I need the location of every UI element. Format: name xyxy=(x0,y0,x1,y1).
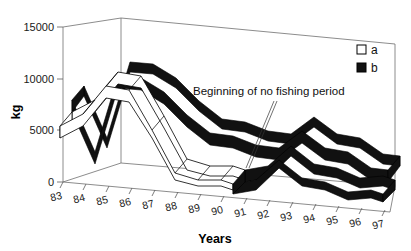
legend-swatch-b xyxy=(357,63,366,72)
x-tick-label-93: 93 xyxy=(279,209,293,224)
x-tick-label-88: 88 xyxy=(164,199,178,214)
y-tick-label-0: 0 xyxy=(48,176,54,188)
x-tick-label-83: 83 xyxy=(49,189,63,204)
frame-back-top-edge xyxy=(121,18,395,44)
x-tick-label-97: 97 xyxy=(371,217,385,232)
y-axis-ticks xyxy=(57,27,63,182)
x-tick-label-90: 90 xyxy=(210,203,224,218)
x-tick-label-92: 92 xyxy=(256,207,270,222)
chart-figure: 15000 10000 5000 0 kg 83 84 xyxy=(0,0,411,251)
legend: a b xyxy=(357,43,378,75)
x-tick-label-86: 86 xyxy=(118,195,132,210)
y-axis-title: kg xyxy=(9,105,23,120)
frame-top-left-diagonal xyxy=(63,18,121,27)
x-tick-label-89: 89 xyxy=(187,201,201,216)
x-tick-85 xyxy=(106,186,109,192)
x-tick-87 xyxy=(152,190,155,196)
x-tick-83 xyxy=(60,182,63,188)
chart-canvas: 15000 10000 5000 0 kg 83 84 xyxy=(0,0,411,251)
x-tick-label-95: 95 xyxy=(325,213,339,228)
x-axis-tick-labels: 83 84 85 86 87 88 89 90 91 92 93 94 95 9… xyxy=(49,189,385,232)
x-tick-84 xyxy=(83,184,86,190)
x-tick-97 xyxy=(382,210,385,216)
legend-label-a: a xyxy=(371,43,378,57)
legend-swatch-a xyxy=(357,45,366,54)
x-tick-label-85: 85 xyxy=(95,193,109,208)
y-tick-label-15000: 15000 xyxy=(23,21,54,33)
x-tick-86 xyxy=(129,188,132,194)
x-axis-title: Years xyxy=(198,232,231,246)
x-tick-label-91: 91 xyxy=(233,205,247,220)
legend-label-b: b xyxy=(371,61,378,75)
frame-floor-left-edge xyxy=(63,163,121,182)
x-tick-88 xyxy=(175,192,178,198)
annotation-label: Beginning of no fishing period xyxy=(193,85,345,97)
y-tick-label-5000: 5000 xyxy=(30,124,54,136)
y-tick-label-10000: 10000 xyxy=(23,73,54,85)
x-tick-label-96: 96 xyxy=(348,215,362,230)
x-tick-label-87: 87 xyxy=(141,197,155,212)
x-tick-label-94: 94 xyxy=(302,211,316,226)
x-tick-label-84: 84 xyxy=(72,191,86,206)
y-axis-tick-labels: 15000 10000 5000 0 xyxy=(23,21,54,188)
